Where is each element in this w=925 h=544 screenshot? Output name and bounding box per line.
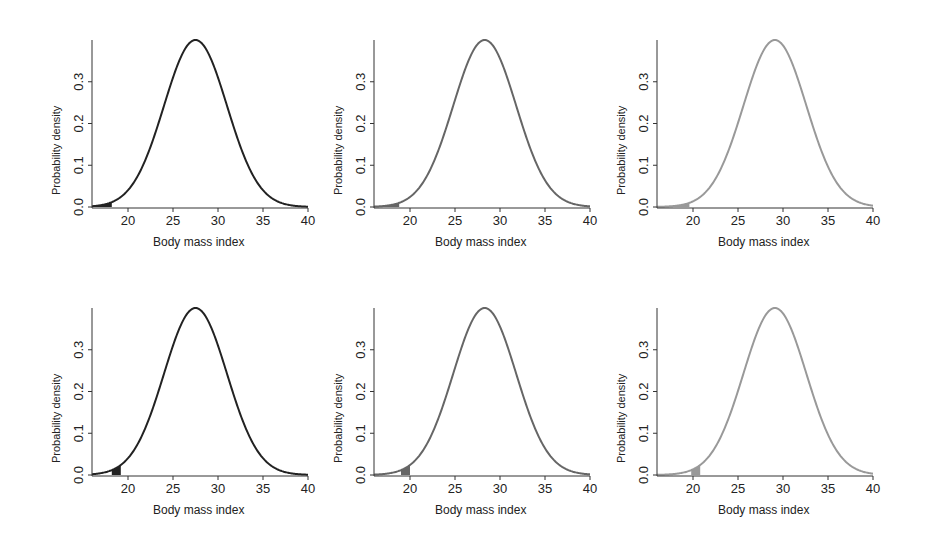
y-tick-label: 0.1 <box>353 156 368 174</box>
y-axis-label: Probability density <box>332 374 344 463</box>
x-axis-label: Body mass index <box>718 503 809 517</box>
x-axis-label: Body mass index <box>153 235 244 249</box>
y-axis-label: Probability density <box>332 106 344 195</box>
y-axis-label: Probability density <box>50 374 62 463</box>
y-tick-label: 0.0 <box>353 198 368 216</box>
x-tick-label: 20 <box>121 481 135 496</box>
x-axis-label: Body mass index <box>718 235 809 249</box>
x-tick-label: 40 <box>301 213 315 228</box>
x-tick-label: 35 <box>821 481 835 496</box>
x-tick-label: 40 <box>866 481 880 496</box>
y-tick-label: 0.1 <box>71 424 86 442</box>
x-tick-label: 35 <box>538 481 552 496</box>
x-tick-label: 40 <box>301 481 315 496</box>
x-tick-label: 40 <box>583 213 597 228</box>
y-axis-label: Probability density <box>615 374 627 463</box>
density-curve <box>657 308 873 475</box>
x-tick-label: 20 <box>403 481 417 496</box>
y-tick-label: 0.2 <box>71 114 86 132</box>
x-tick-label: 30 <box>776 481 790 496</box>
x-tick-label: 20 <box>121 213 135 228</box>
y-tick-label: 0.0 <box>636 198 651 216</box>
y-axis-label: Probability density <box>50 106 62 195</box>
y-tick-label: 0.2 <box>636 382 651 400</box>
x-tick-label: 30 <box>493 481 507 496</box>
density-curve <box>92 40 308 207</box>
y-tick-label: 0.0 <box>636 466 651 484</box>
chart-panel-bottom-left: 20253035400.00.10.20.3 Probability densi… <box>40 293 330 543</box>
y-tick-label: 0.1 <box>636 424 651 442</box>
chart-panel-bottom-middle: 20253035400.00.10.20.3 Probability densi… <box>322 293 612 543</box>
x-tick-label: 35 <box>256 213 270 228</box>
x-axis-label: Body mass index <box>435 235 526 249</box>
x-tick-label: 35 <box>256 481 270 496</box>
density-curve <box>657 40 873 207</box>
x-tick-label: 25 <box>166 481 180 496</box>
density-curve <box>374 40 590 207</box>
x-tick-label: 30 <box>211 213 225 228</box>
x-tick-label: 20 <box>686 481 700 496</box>
y-axis-label: Probability density <box>615 106 627 195</box>
x-tick-label: 30 <box>776 213 790 228</box>
chart-panel-top-left: 20253035400.00.10.20.3 Probability densi… <box>40 25 330 275</box>
x-tick-label: 40 <box>866 213 880 228</box>
y-tick-label: 0.3 <box>71 73 86 91</box>
y-tick-label: 0.3 <box>353 73 368 91</box>
y-tick-label: 0.1 <box>636 156 651 174</box>
y-tick-label: 0.1 <box>71 156 86 174</box>
x-tick-label: 30 <box>493 213 507 228</box>
x-tick-label: 25 <box>448 481 462 496</box>
y-tick-label: 0.2 <box>353 382 368 400</box>
y-tick-label: 0.2 <box>353 114 368 132</box>
density-curve <box>374 308 590 475</box>
x-tick-label: 30 <box>211 481 225 496</box>
x-tick-label: 25 <box>448 213 462 228</box>
chart-panel-bottom-right: 20253035400.00.10.20.3 Probability densi… <box>605 293 895 543</box>
y-tick-label: 0.3 <box>353 341 368 359</box>
y-tick-label: 0.0 <box>71 198 86 216</box>
x-tick-label: 25 <box>731 481 745 496</box>
y-tick-label: 0.2 <box>71 382 86 400</box>
y-tick-label: 0.1 <box>353 424 368 442</box>
x-tick-label: 40 <box>583 481 597 496</box>
y-tick-label: 0.0 <box>353 466 368 484</box>
chart-panel-top-middle: 20253035400.00.10.20.3 Probability densi… <box>322 25 612 275</box>
x-tick-label: 20 <box>403 213 417 228</box>
y-tick-label: 0.0 <box>71 466 86 484</box>
x-tick-label: 25 <box>731 213 745 228</box>
x-axis-label: Body mass index <box>435 503 526 517</box>
y-tick-label: 0.3 <box>71 341 86 359</box>
x-tick-label: 35 <box>821 213 835 228</box>
density-curve <box>92 308 308 475</box>
y-tick-label: 0.2 <box>636 114 651 132</box>
y-tick-label: 0.3 <box>636 73 651 91</box>
x-tick-label: 20 <box>686 213 700 228</box>
x-axis-label: Body mass index <box>153 503 244 517</box>
y-tick-label: 0.3 <box>636 341 651 359</box>
chart-panel-top-right: 20253035400.00.10.20.3 Probability densi… <box>605 25 895 275</box>
x-tick-label: 35 <box>538 213 552 228</box>
x-tick-label: 25 <box>166 213 180 228</box>
